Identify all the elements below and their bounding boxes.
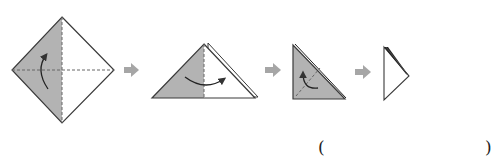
step-1-diamond [12,17,114,123]
answer-open-paren: ( [318,139,325,156]
origami-diagram [0,0,495,165]
step-arrow-icon [355,65,371,79]
step-4-final-triangle [384,47,409,100]
step-arrow-icon [124,63,139,77]
step-3-right-triangle [293,44,346,99]
step-arrow-icon [265,63,281,77]
answer-close-paren: ) [485,139,492,156]
step-2-triangle [152,43,258,98]
